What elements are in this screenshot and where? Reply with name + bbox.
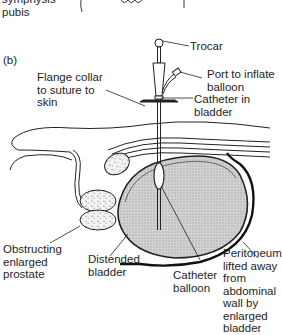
trocar-label: Trocar: [190, 40, 223, 53]
peritoneum-label: Peritoneum lifted away from abdominal wa…: [223, 247, 282, 335]
prostate-shape: [80, 190, 116, 230]
prostate-label: Obstructing enlarged prostate: [3, 243, 62, 281]
symphysis-pubis-shape: [101, 149, 134, 179]
port-label: Port to inflate balloon: [207, 68, 275, 93]
panel-label: (b): [3, 54, 17, 67]
bladder-shape: [118, 156, 248, 258]
abdominal-wall: [10, 122, 270, 170]
flange-collar-label: Flange collar to suture to skin: [37, 71, 103, 109]
symphysis-pubis-label: symphysis pubis: [2, 0, 56, 18]
catheter-balloon-label: Catheter balloon: [173, 269, 217, 294]
catheter-in-bladder-label: Catheter in bladder: [194, 93, 250, 118]
top-fragment: [81, 0, 184, 12]
distended-bladder-label: Distended bladder: [88, 253, 140, 278]
